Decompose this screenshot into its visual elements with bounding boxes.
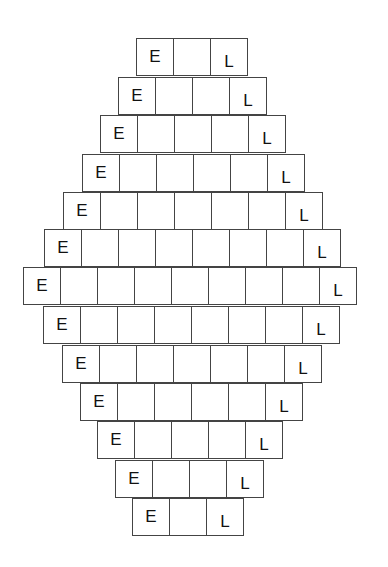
- blank-cell[interactable]: [230, 154, 268, 192]
- blank-cell[interactable]: [117, 306, 155, 344]
- blank-cell[interactable]: [100, 192, 138, 230]
- cell-letter: E: [145, 507, 156, 527]
- letter-cell-start: E: [23, 267, 61, 305]
- blank-cell[interactable]: [152, 460, 190, 498]
- blank-cell[interactable]: [173, 38, 211, 76]
- blank-cell[interactable]: [154, 383, 192, 421]
- blank-cell[interactable]: [81, 229, 119, 267]
- blank-cell[interactable]: [211, 192, 249, 230]
- blank-cell[interactable]: [97, 267, 135, 305]
- letter-cell-start: E: [136, 38, 174, 76]
- letter-cell-start: E: [80, 383, 118, 421]
- cell-letter: L: [316, 320, 325, 340]
- blank-cell[interactable]: [266, 229, 304, 267]
- cell-letter: L: [317, 243, 326, 263]
- cell-letter: E: [76, 201, 87, 221]
- cell-letter: E: [113, 124, 124, 144]
- blank-cell[interactable]: [99, 345, 137, 383]
- blank-cell[interactable]: [228, 383, 266, 421]
- grid-row: EL: [132, 498, 244, 536]
- blank-cell[interactable]: [156, 154, 194, 192]
- blank-cell[interactable]: [80, 306, 118, 344]
- blank-cell[interactable]: [210, 345, 248, 383]
- blank-cell[interactable]: [248, 192, 286, 230]
- blank-cell[interactable]: [208, 267, 246, 305]
- cell-letter: E: [131, 86, 142, 106]
- blank-cell[interactable]: [192, 77, 230, 115]
- letter-cell-end: L: [303, 229, 341, 267]
- grid-row: EL: [118, 77, 267, 115]
- blank-cell[interactable]: [211, 115, 249, 153]
- blank-cell[interactable]: [247, 345, 285, 383]
- blank-cell[interactable]: [155, 229, 193, 267]
- blank-cell[interactable]: [174, 192, 212, 230]
- blank-cell[interactable]: [229, 229, 267, 267]
- blank-cell[interactable]: [191, 306, 229, 344]
- blank-cell[interactable]: [136, 345, 174, 383]
- grid-row: EL: [62, 345, 322, 383]
- cell-letter: L: [259, 435, 268, 455]
- blank-cell[interactable]: [117, 383, 155, 421]
- letter-cell-end: L: [226, 460, 264, 498]
- letter-cell-start: E: [100, 115, 138, 153]
- blank-cell[interactable]: [174, 115, 212, 153]
- grid-row: EL: [115, 460, 264, 498]
- blank-cell[interactable]: [189, 460, 227, 498]
- blank-cell[interactable]: [60, 267, 98, 305]
- blank-cell[interactable]: [193, 154, 231, 192]
- blank-cell[interactable]: [118, 229, 156, 267]
- blank-cell[interactable]: [208, 421, 246, 459]
- blank-cell[interactable]: [134, 267, 172, 305]
- grid-row: EL: [23, 267, 357, 305]
- cell-letter: E: [128, 469, 139, 489]
- grid-row: EL: [43, 306, 340, 344]
- blank-cell[interactable]: [171, 267, 209, 305]
- letter-cell-end: L: [229, 77, 267, 115]
- cell-letter: E: [95, 163, 106, 183]
- blank-cell[interactable]: [137, 192, 175, 230]
- letter-cell-end: L: [302, 306, 340, 344]
- grid-row: EL: [63, 192, 323, 230]
- letter-cell-start: E: [115, 460, 153, 498]
- grid-row: EL: [80, 383, 303, 421]
- blank-cell[interactable]: [169, 498, 207, 536]
- letter-cell-start: E: [132, 498, 170, 536]
- blank-cell[interactable]: [134, 421, 172, 459]
- cell-letter: L: [220, 512, 229, 532]
- blank-cell[interactable]: [265, 306, 303, 344]
- blank-cell[interactable]: [155, 77, 193, 115]
- blank-cell[interactable]: [154, 306, 192, 344]
- cell-letter: L: [299, 206, 308, 226]
- letter-cell-end: L: [210, 38, 248, 76]
- cell-letter: L: [243, 91, 252, 111]
- blank-cell[interactable]: [282, 267, 320, 305]
- letter-cell-end: L: [245, 421, 283, 459]
- cell-letter: E: [75, 354, 86, 374]
- cell-letter: E: [110, 430, 121, 450]
- cell-letter: L: [333, 281, 342, 301]
- blank-cell[interactable]: [119, 154, 157, 192]
- cell-letter: L: [281, 168, 290, 188]
- letter-cell-start: E: [97, 421, 135, 459]
- cell-letter: E: [36, 276, 47, 296]
- grid-row: EL: [82, 154, 305, 192]
- letter-cell-start: E: [82, 154, 120, 192]
- grid-row: EL: [100, 115, 286, 153]
- grid-row: EL: [136, 38, 248, 76]
- letter-cell-start: E: [62, 345, 100, 383]
- letter-cell-start: E: [43, 306, 81, 344]
- letter-cell-end: L: [267, 154, 305, 192]
- letter-cell-end: L: [206, 498, 244, 536]
- blank-cell[interactable]: [171, 421, 209, 459]
- blank-cell[interactable]: [173, 345, 211, 383]
- blank-cell[interactable]: [192, 229, 230, 267]
- blank-cell[interactable]: [245, 267, 283, 305]
- letter-cell-end: L: [284, 345, 322, 383]
- blank-cell[interactable]: [191, 383, 229, 421]
- cell-letter: L: [279, 397, 288, 417]
- cell-letter: L: [224, 52, 233, 72]
- cell-letter: E: [56, 315, 67, 335]
- blank-cell[interactable]: [137, 115, 175, 153]
- grid-row: EL: [97, 421, 283, 459]
- blank-cell[interactable]: [228, 306, 266, 344]
